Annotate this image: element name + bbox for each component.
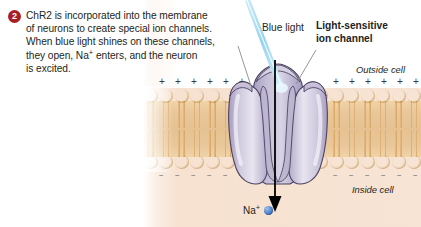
figure-panel: ++++++++++++ −−−−−−−−−−−− bbox=[0, 0, 421, 227]
lipid-head bbox=[376, 89, 390, 103]
lipid-head bbox=[144, 155, 158, 169]
step-caption: 2 ChR2 is incorporated into the membrane… bbox=[8, 9, 222, 75]
lipid-tail bbox=[163, 101, 165, 128]
positive-charge: + bbox=[413, 76, 419, 88]
negative-charge: − bbox=[365, 170, 370, 182]
caption-line-4b: enters, and the neuron bbox=[93, 50, 197, 61]
phospholipid bbox=[159, 154, 175, 170]
lipid-tail bbox=[400, 130, 402, 157]
negative-charge: − bbox=[207, 170, 212, 182]
lipid-tail bbox=[395, 130, 397, 157]
phospholipid bbox=[174, 88, 190, 104]
phospholipid bbox=[345, 88, 361, 104]
negative-charge: − bbox=[159, 170, 164, 182]
positive-charge: + bbox=[397, 76, 403, 88]
lipid-tail bbox=[199, 101, 201, 128]
phospholipid bbox=[143, 154, 159, 170]
lipid-tail bbox=[147, 130, 149, 157]
negative-charge: − bbox=[381, 170, 386, 182]
positive-charge: + bbox=[207, 76, 213, 88]
lipid-tail bbox=[416, 101, 418, 128]
ion-channel-label-line2: ion channel bbox=[316, 33, 373, 44]
lipid-head bbox=[144, 89, 158, 103]
lipid-tail bbox=[380, 130, 382, 157]
lipid-tail bbox=[183, 130, 185, 157]
lipid-tail bbox=[152, 101, 154, 128]
phospholipid bbox=[376, 88, 392, 104]
positive-charge: + bbox=[159, 76, 165, 88]
lipid-tail bbox=[209, 101, 211, 128]
lipid-tail bbox=[411, 101, 413, 128]
inside-cell-label: Inside cell bbox=[352, 184, 394, 195]
phospholipid bbox=[190, 154, 206, 170]
lipid-head bbox=[159, 155, 173, 169]
lipid-tail bbox=[338, 130, 340, 157]
lipid-head bbox=[376, 155, 390, 169]
lipid-head bbox=[345, 155, 359, 169]
lipid-head bbox=[392, 89, 406, 103]
positive-charge: + bbox=[175, 76, 181, 88]
sodium-symbol: Na+ bbox=[243, 205, 260, 216]
lipid-head bbox=[206, 155, 220, 169]
phospholipid bbox=[143, 88, 159, 104]
caption-line-3: When blue light shines on these channels… bbox=[26, 36, 215, 47]
lipid-head bbox=[159, 89, 173, 103]
lipid-head bbox=[345, 89, 359, 103]
phospholipid bbox=[376, 154, 392, 170]
lipid-tail bbox=[183, 101, 185, 128]
ion-channel-label-line1: Light-sensitive bbox=[316, 20, 388, 31]
positive-charge: + bbox=[381, 76, 387, 88]
light-sensitive-ion-channel-graphic bbox=[222, 62, 334, 188]
lipid-head bbox=[407, 155, 421, 169]
phospholipid bbox=[205, 154, 221, 170]
negative-charge: − bbox=[413, 170, 418, 182]
positive-charge: + bbox=[365, 76, 371, 88]
phospholipid bbox=[205, 88, 221, 104]
lipid-tail bbox=[199, 130, 201, 157]
positive-charge: + bbox=[191, 76, 197, 88]
lipid-head bbox=[190, 89, 204, 103]
lipid-head bbox=[361, 89, 375, 103]
phospholipid bbox=[391, 154, 407, 170]
lipid-tail bbox=[152, 130, 154, 157]
lipid-tail bbox=[178, 130, 180, 157]
lipid-head bbox=[206, 89, 220, 103]
lipid-tail bbox=[338, 101, 340, 128]
lipid-tail bbox=[349, 130, 351, 157]
phospholipid bbox=[391, 88, 407, 104]
negative-charge: − bbox=[397, 170, 402, 182]
lipid-tail bbox=[168, 130, 170, 157]
lipid-tail bbox=[369, 130, 371, 157]
phospholipid bbox=[360, 88, 376, 104]
lipid-tail bbox=[395, 101, 397, 128]
lipid-tail bbox=[214, 101, 216, 128]
sodium-ion-label: Na+ bbox=[243, 205, 273, 216]
lipid-head bbox=[407, 89, 421, 103]
negative-charge: − bbox=[175, 170, 180, 182]
step-caption-text: ChR2 is incorporated into the membrane o… bbox=[26, 9, 215, 75]
lipid-tail bbox=[411, 130, 413, 157]
lipid-tail bbox=[364, 101, 366, 128]
phospholipid bbox=[407, 88, 421, 104]
lipid-tail bbox=[349, 101, 351, 128]
negative-charge: − bbox=[191, 170, 196, 182]
phospholipid bbox=[345, 154, 361, 170]
lipid-tail bbox=[168, 101, 170, 128]
phospholipid bbox=[174, 154, 190, 170]
negative-charge: − bbox=[349, 170, 354, 182]
lipid-tail bbox=[416, 130, 418, 157]
caption-line-1: ChR2 is incorporated into the membrane bbox=[26, 10, 208, 21]
lipid-tail bbox=[364, 130, 366, 157]
lipid-head bbox=[190, 155, 204, 169]
phospholipid bbox=[407, 154, 421, 170]
sodium-charge-sup: + bbox=[256, 203, 260, 212]
lipid-tail bbox=[354, 101, 356, 128]
phospholipid bbox=[159, 88, 175, 104]
lipid-tail bbox=[354, 130, 356, 157]
phospholipid bbox=[190, 88, 206, 104]
lipid-head bbox=[392, 155, 406, 169]
step-number-badge: 2 bbox=[8, 10, 21, 23]
lipid-tail bbox=[400, 101, 402, 128]
phospholipid bbox=[360, 154, 376, 170]
lipid-head bbox=[361, 155, 375, 169]
